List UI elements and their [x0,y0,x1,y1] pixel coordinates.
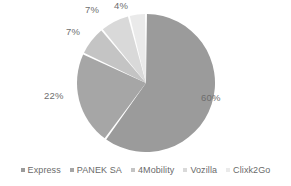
data-label-4mobility: 7% [66,27,80,37]
legend-item-label: 4Mobility [138,166,174,175]
legend-item-label: Vozilla [190,166,217,175]
legend-item-label: Clixk2Go [233,166,270,175]
legend-item-label: Express [28,166,61,175]
data-label-express: 60% [201,93,221,103]
pie-slice-group [77,14,215,152]
legend-swatch-icon [131,168,135,172]
legend-item[interactable]: Clixk2Go [226,166,270,175]
chart-plot-area: 60% 22% 7% 7% 4% [0,0,291,152]
legend-item[interactable]: Express [21,166,61,175]
pie-svg [0,0,291,152]
legend-item-label: PANEK SA [77,166,122,175]
data-label-panek-sa: 22% [44,91,64,101]
legend-item[interactable]: PANEK SA [70,166,122,175]
legend-swatch-icon [21,168,25,172]
legend-swatch-icon [183,168,187,172]
pie-chart-figure: 60% 22% 7% 7% 4% ExpressPANEK SA4Mobilit… [0,0,291,186]
legend-swatch-icon [226,168,230,172]
legend-item[interactable]: 4Mobility [131,166,174,175]
data-label-clixk2go: 4% [114,1,128,11]
chart-legend: ExpressPANEK SA4MobilityVozillaClixk2Go [0,160,291,180]
data-label-vozilla: 7% [85,5,99,15]
legend-item[interactable]: Vozilla [183,166,217,175]
legend-swatch-icon [70,168,74,172]
